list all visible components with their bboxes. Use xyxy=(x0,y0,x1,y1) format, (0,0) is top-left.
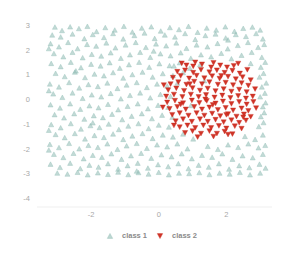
scatter-plot-figure: 3210-1-2-3-4 -202 class 1class 2 xyxy=(0,0,284,255)
x-tick-label: 0 xyxy=(157,210,161,219)
y-tick-label: 2 xyxy=(26,46,30,55)
y-tick-label: 3 xyxy=(26,21,30,30)
x-tick-label: -2 xyxy=(88,210,95,219)
y-tick-label: -2 xyxy=(23,145,30,154)
x-tick-label: 2 xyxy=(224,210,228,219)
y-tick-label: -1 xyxy=(23,120,30,129)
y-tick-label: 0 xyxy=(26,95,30,104)
y-tick-label: -4 xyxy=(23,194,30,203)
legend-item-label[interactable]: class 2 xyxy=(172,231,197,240)
y-tick-label: -3 xyxy=(23,169,30,178)
legend-item-label[interactable]: class 1 xyxy=(122,231,147,240)
y-tick-label: 1 xyxy=(26,70,30,79)
scatter-plot-canvas: 3210-1-2-3-4 -202 class 1class 2 xyxy=(0,0,284,255)
